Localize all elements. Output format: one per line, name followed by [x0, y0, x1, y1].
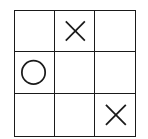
board-cell-r1-c1[interactable] [54, 51, 95, 94]
board-cell-r0-c0[interactable] [14, 10, 55, 52]
board-cell-r0-c1[interactable] [54, 10, 95, 52]
board-cell-r2-c0[interactable] [14, 93, 55, 137]
board-cell-r2-c2[interactable] [94, 93, 136, 137]
x-mark-icon [55, 11, 94, 51]
board-cell-r1-c0[interactable] [14, 51, 55, 94]
board-cell-r0-c2[interactable] [94, 10, 136, 52]
board-cell-r2-c1[interactable] [54, 93, 95, 137]
o-mark-icon [15, 52, 54, 93]
tic-tac-toe-board [14, 10, 136, 137]
x-mark-icon [95, 94, 135, 136]
board-cell-r1-c2[interactable] [94, 51, 136, 94]
